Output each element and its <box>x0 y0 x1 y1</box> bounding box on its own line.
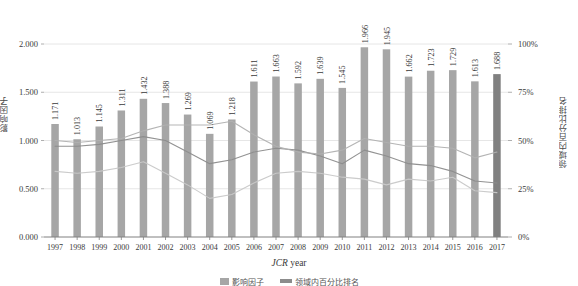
x-axis-tick-label: 2011 <box>357 243 373 252</box>
x-axis-tick-label: 2016 <box>467 243 483 252</box>
bar-2003 <box>184 115 192 237</box>
y-axis-title-left: 影响因子 <box>1 96 17 132</box>
x-axis-tick-label: 2017 <box>489 243 505 252</box>
bar-2013 <box>405 77 413 237</box>
bar-data-label: 1.945 <box>383 27 392 45</box>
x-axis-tick-label: 2014 <box>423 243 439 252</box>
bar-2011 <box>361 47 369 237</box>
bar-2016 <box>471 81 479 237</box>
bar-data-label: 1.663 <box>272 54 281 72</box>
y2-axis-tick-label: 50% <box>518 136 534 146</box>
x-axis-tick-label: 2005 <box>224 243 240 252</box>
x-axis-tick-label: 2013 <box>401 243 417 252</box>
bar-2014 <box>427 71 435 237</box>
x-axis-tick-label: 2003 <box>180 243 196 252</box>
bar-data-label: 1.069 <box>206 111 215 129</box>
bar-2000 <box>118 110 126 237</box>
x-axis-tick-label: 1998 <box>69 243 85 252</box>
bar-data-label: 1.729 <box>449 48 458 66</box>
chart-figure: 影响因子 领域内百分比排名 0.0000.5001.0001.5002.0000… <box>0 0 578 286</box>
x-axis-tick-label: 2007 <box>268 243 284 252</box>
bar-2009 <box>316 79 324 237</box>
legend-item: 领域内百分比排名 <box>280 276 359 286</box>
legend-label: 影响因子 <box>232 276 264 286</box>
bar-data-label: 1.723 <box>427 48 436 66</box>
y2-axis-tick-label: 75% <box>518 87 534 97</box>
bar-data-label: 1.388 <box>162 81 171 99</box>
bar-2002 <box>162 103 170 237</box>
bar-2017 <box>493 74 501 237</box>
legend-swatch-bar <box>220 278 229 285</box>
y-axis-tick-label: 0.000 <box>19 232 38 242</box>
bar-data-label: 1.592 <box>294 61 303 79</box>
bar-data-label: 1.013 <box>73 117 82 135</box>
x-axis-tick-label: 2015 <box>445 243 461 252</box>
legend-label: 领域内百分比排名 <box>295 276 359 286</box>
y-axis-tick-label: 1.500 <box>19 87 38 97</box>
x-axis-tick-label: 2002 <box>158 243 174 252</box>
bar-data-label: 1.432 <box>140 76 149 94</box>
y2-axis-tick-label: 25% <box>518 184 534 194</box>
y2-axis-tick-label: 100% <box>518 39 538 49</box>
bar-data-label: 1.145 <box>95 104 104 122</box>
bar-2015 <box>449 70 457 237</box>
x-axis-title: JCR year <box>0 258 578 268</box>
bar-1999 <box>95 127 103 237</box>
bar-data-label: 1.171 <box>51 102 60 120</box>
bar-data-label: 1.611 <box>250 59 259 77</box>
legend-item: 影响因子 <box>220 276 264 286</box>
bar-data-label: 1.311 <box>118 88 127 106</box>
x-axis-tick-label: 2010 <box>334 243 350 252</box>
bar-1998 <box>73 139 81 237</box>
bar-data-label: 1.639 <box>316 56 325 74</box>
legend-swatch-line <box>280 279 292 283</box>
y-axis-tick-label: 2.000 <box>19 39 38 49</box>
bar-data-label: 1.269 <box>184 92 193 110</box>
x-axis-tick-label: 2009 <box>312 243 328 252</box>
x-axis-tick-label: 2012 <box>378 243 394 252</box>
x-axis-tick-label: 1997 <box>47 243 63 252</box>
bar-data-label: 1.688 <box>493 52 502 70</box>
bar-data-label: 1.218 <box>228 97 237 115</box>
y-axis-tick-label: 1.000 <box>19 136 38 146</box>
x-axis-tick-label: 2006 <box>246 243 262 252</box>
bar-data-label: 1.966 <box>361 25 370 43</box>
bar-data-label: 1.662 <box>405 54 414 72</box>
x-axis-title-rest: year <box>290 258 306 268</box>
bar-2007 <box>272 77 280 237</box>
x-axis-tick-label: 2008 <box>290 243 306 252</box>
bar-2004 <box>206 134 214 237</box>
chart-legend: 影响因子领域内百分比排名 <box>0 276 578 286</box>
bar-2001 <box>140 99 148 237</box>
y-axis-tick-label: 0.500 <box>19 184 38 194</box>
x-axis-tick-label: 2004 <box>202 243 218 252</box>
chart-plot-area: 0.0000.5001.0001.5002.0000%25%50%75%100%… <box>0 0 578 286</box>
y2-axis-tick-label: 0% <box>518 232 529 242</box>
bar-2008 <box>294 83 302 237</box>
bar-2006 <box>250 82 258 237</box>
x-axis-tick-label: 2000 <box>113 243 129 252</box>
bar-data-label: 1.613 <box>471 59 480 77</box>
bar-2005 <box>228 119 236 237</box>
bar-data-label: 1.545 <box>338 65 347 83</box>
x-axis-tick-label: 2001 <box>135 243 151 252</box>
x-axis-tick-label: 1999 <box>91 243 107 252</box>
x-axis-title-italic: JCR <box>271 258 287 268</box>
y-axis-title-right: 领域内百分比排名 <box>560 96 576 168</box>
